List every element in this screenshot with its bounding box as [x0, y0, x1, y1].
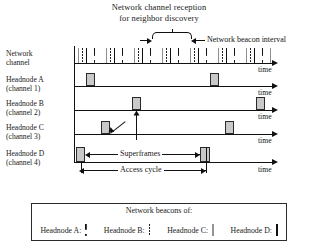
beacon-tick-b — [250, 48, 251, 63]
legend-label-headnode-a: Headnode A: — [40, 226, 81, 235]
beacon-tick-a — [178, 48, 179, 63]
time-label-headnode-b: time — [258, 113, 272, 121]
axis-arrow-headnode-d — [272, 159, 278, 165]
axis-origin-tick-headnode-c — [74, 111, 75, 135]
axis-origin-tick-headnode-d — [74, 135, 75, 163]
beacon-tick-c — [106, 48, 107, 63]
axis-headnode-d — [74, 162, 273, 163]
headnode-a-label-line2: (channel 1) — [6, 84, 72, 93]
timing-diagram: Network channel reception for neighbor d… — [0, 0, 318, 247]
legend-items: Headnode A: Headnode B: Headnode C: Head… — [32, 221, 286, 239]
time-label-headnode-c: time — [258, 137, 272, 145]
beacon-tick-a — [206, 48, 207, 63]
headnode-a-beacon-block — [210, 73, 219, 86]
beacon-tick-c — [190, 48, 191, 63]
headnode-c-beacon-block — [225, 121, 234, 134]
headnode-c-label-line2: (channel 3) — [6, 132, 72, 141]
time-label-headnode-a: time — [258, 89, 272, 97]
axis-headnode-a — [74, 86, 273, 87]
axis-origin-tick-network-channel — [74, 46, 75, 64]
network-channel-beacon-ticks — [74, 46, 274, 63]
headnode-b-label-line2: (channel 2) — [6, 108, 72, 117]
beacon-tick-b — [138, 48, 139, 63]
beacon-tick-c — [218, 48, 219, 63]
beacon-tick-b — [166, 48, 167, 63]
row-label-network-channel: Network channel — [6, 49, 72, 67]
row-label-headnode-c: Headnode C (channel 3) — [6, 123, 72, 141]
time-label-headnode-d: time — [258, 166, 272, 174]
legend-box: Network beacons of: Headnode A: Headnode… — [31, 203, 287, 241]
figure-title-line1: Network channel reception — [0, 2, 318, 13]
beacon-tick-c — [270, 48, 271, 63]
figure-title: Network channel reception for neighbor d… — [0, 2, 318, 23]
access-cycle-label: Access cycle — [118, 165, 164, 174]
headnode-b-label-line1: Headnode B — [6, 99, 44, 108]
row-label-headnode-b: Headnode B (channel 2) — [6, 99, 72, 117]
axis-origin-tick-headnode-a — [74, 64, 75, 87]
beacon-tick-c — [134, 48, 135, 63]
superframes-left-arrowhead — [85, 152, 90, 158]
headnode-b-beacon-block — [132, 97, 141, 110]
beacon-tick-a — [262, 48, 263, 63]
headnode-d-label-line2: (channel 4) — [6, 158, 72, 167]
beacon-tick-d — [142, 48, 143, 63]
pointer-arrow-to-headnode-b-block — [136, 112, 137, 140]
row-label-headnode-a: Headnode A (channel 1) — [6, 75, 72, 93]
network-channel-label-line1: Network — [6, 49, 33, 58]
beacon-tick-c — [246, 48, 247, 63]
headnode-a-label-line1: Headnode A — [6, 75, 44, 84]
access-cycle-right-cap — [206, 147, 207, 173]
axis-origin-tick-headnode-b — [74, 87, 75, 111]
pointer-arrowhead-headnode-b — [133, 111, 139, 116]
beacon-tick-b — [110, 48, 111, 63]
axis-arrow-headnode-a — [272, 83, 278, 89]
beacon-tick-a — [94, 48, 95, 63]
legend-label-headnode-c: Headnode C: — [167, 226, 208, 235]
axis-arrow-headnode-c — [272, 131, 278, 137]
beacon-tick-c — [162, 48, 163, 63]
legend-item-headnode-c: Headnode C: — [167, 224, 214, 236]
beacon-tick-b — [82, 48, 83, 63]
legend-swatch-black-solid-icon — [276, 224, 278, 236]
headnode-c-label-line1: Headnode C — [6, 123, 44, 132]
beacon-tick-c — [78, 48, 79, 63]
beacon-tick-a — [234, 48, 235, 63]
time-label-network-channel: time — [258, 66, 272, 74]
axis-arrow-headnode-b — [272, 107, 278, 113]
legend-label-headnode-d: Headnode D: — [231, 226, 272, 235]
access-cycle-left-cap — [81, 163, 82, 173]
beacon-tick-d — [114, 48, 115, 63]
legend-item-headnode-d: Headnode D: — [231, 224, 278, 236]
network-channel-label-line2: channel — [6, 58, 72, 67]
superframes-label: Superframes — [118, 149, 162, 158]
axis-headnode-c — [74, 134, 273, 135]
headnode-d-label-line1: Headnode D — [6, 149, 44, 158]
reception-window-left-arrowhead — [147, 38, 152, 44]
axis-arrow-network-channel — [272, 60, 278, 66]
reception-window-right-arrowhead — [191, 38, 196, 44]
beacon-tick-a — [122, 48, 123, 63]
legend-item-headnode-a: Headnode A: — [40, 224, 87, 236]
beacon-tick-b — [222, 48, 223, 63]
superframes-right-arrowhead — [195, 152, 200, 158]
legend-title: Network beacons of: — [32, 206, 286, 216]
axis-headnode-b — [74, 110, 273, 111]
legend-swatch-dash-dot-icon — [85, 224, 87, 236]
row-label-headnode-d: Headnode D (channel 4) — [6, 149, 72, 167]
legend-swatch-dotted-icon — [149, 224, 151, 236]
axis-network-channel — [74, 63, 273, 64]
beacon-tick-d — [254, 48, 255, 63]
beacon-tick-d — [86, 48, 87, 63]
beacon-tick-d — [198, 48, 199, 63]
headnode-a-beacon-block — [86, 73, 95, 86]
network-beacon-interval-label: Network beacon interval — [207, 36, 286, 44]
legend-item-headnode-b: Headnode B: — [104, 224, 151, 236]
reception-window-brace — [152, 32, 192, 39]
legend-label-headnode-b: Headnode B: — [104, 226, 145, 235]
headnode-b-beacon-block — [256, 97, 265, 110]
reception-window-right-marker — [196, 40, 205, 41]
legend-swatch-gray-solid-icon — [212, 224, 214, 236]
beacon-tick-a — [150, 48, 151, 63]
beacon-tick-d — [170, 48, 171, 63]
headnode-d-beacon-block — [76, 147, 85, 162]
